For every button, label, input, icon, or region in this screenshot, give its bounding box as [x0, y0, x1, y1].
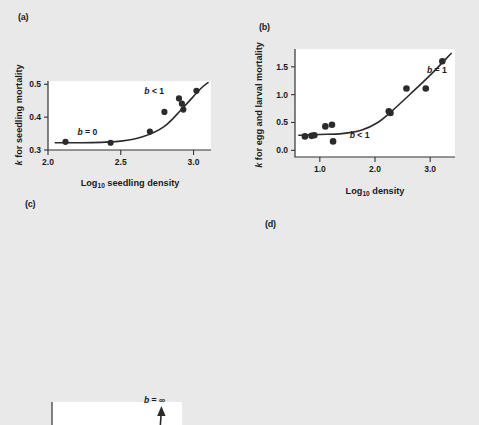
panel-c-label: (c) [25, 199, 35, 209]
curve-annotation: b = 1 [427, 65, 447, 75]
panel-b-chart: 0.00.51.01.51.02.03.0b < 1b = 1k for egg… [239, 0, 479, 212]
x-axis-title: Log10 seedling density [81, 178, 181, 189]
data-point [180, 106, 186, 112]
data-point [329, 121, 336, 128]
data-point [302, 133, 309, 140]
panel-a-chart: 0.30.40.52.02.53.0b = 0b < 1k for seedli… [0, 0, 240, 212]
y-axis-tick-label: 0.4 [29, 112, 41, 122]
data-point [179, 101, 185, 107]
figure-container: (a) 0.30.40.52.02.53.0b = 0b < 1k for se… [0, 0, 479, 425]
x-axis-tick-label: 2.0 [369, 164, 381, 174]
curve-annotation: b = 0 [77, 127, 97, 137]
y-axis-tick-label: 0.5 [276, 117, 288, 127]
y-axis-tick-label: 1.5 [276, 62, 288, 72]
data-point [422, 85, 429, 92]
y-axis-title: k for egg and larval mortality [254, 41, 264, 168]
data-point [330, 138, 337, 145]
panel-d: (d) 01230123b > 1k for larval mortalityL… [239, 190, 479, 425]
data-point [107, 140, 113, 146]
data-point [387, 110, 394, 117]
curve-annotation: b = ∞ [144, 395, 165, 405]
y-axis-tick-label: 1.0 [276, 90, 288, 100]
y-axis-tick-label: 0.5 [29, 79, 41, 89]
panel-c-chart: 00.51.000.5b = ∞k for larval mortalityLo… [0, 190, 240, 425]
x-axis-tick-label: 3.0 [424, 164, 436, 174]
panel-d-label: (d) [265, 219, 276, 229]
x-axis-tick-label: 2.0 [42, 157, 54, 167]
data-point [147, 129, 153, 135]
data-point [322, 123, 329, 130]
panel-a-label: (a) [18, 12, 28, 22]
data-point [403, 85, 410, 92]
data-point [193, 88, 199, 94]
data-point [62, 139, 68, 145]
y-axis-title: k for seedling mortality [14, 64, 24, 166]
data-point [161, 109, 167, 115]
data-point [176, 95, 182, 101]
panel-c: (c) 00.51.000.5b = ∞k for larval mortali… [0, 190, 240, 425]
curve-annotation: b < 1 [144, 86, 164, 96]
panel-b: (b) 0.00.51.01.51.02.03.0b < 1b = 1k for… [239, 0, 479, 212]
data-point [439, 58, 446, 65]
x-axis-tick-label: 3.0 [188, 157, 200, 167]
x-axis-tick-label: 2.5 [115, 157, 127, 167]
y-axis-tick-label: 0.0 [276, 145, 288, 155]
panel-b-label: (b) [259, 22, 270, 32]
x-axis-tick-label: 1.0 [314, 164, 326, 174]
curve-annotation: b < 1 [350, 130, 370, 140]
y-axis-tick-label: 0.3 [29, 145, 41, 155]
data-point [311, 132, 318, 139]
panel-a: (a) 0.30.40.52.02.53.0b = 0b < 1k for se… [0, 0, 240, 212]
